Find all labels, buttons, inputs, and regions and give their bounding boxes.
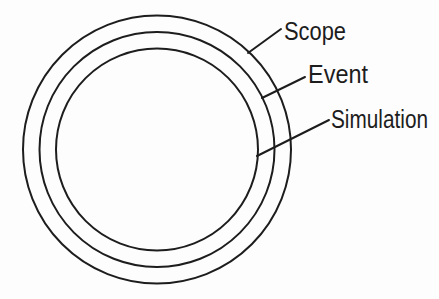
event-label: Event [308,59,369,89]
simulation-label: Simulation [331,104,428,134]
concentric-circles-diagram: Scope Event Simulation [0,0,439,299]
scope-label: Scope [284,16,346,46]
event-ring [40,32,275,267]
diagram-canvas: Scope Event Simulation [0,0,439,299]
simulation-ring [56,49,258,251]
scope-leader-line [248,29,281,53]
simulation-leader-line [257,120,329,156]
event-leader-line [262,77,305,98]
scope-ring [23,16,291,284]
